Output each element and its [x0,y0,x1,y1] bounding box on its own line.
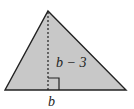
triangle [5,11,126,90]
height-label: b − 3 [56,55,86,70]
triangle-diagram: b − 3 b [0,0,134,109]
base-label: b [48,94,55,109]
